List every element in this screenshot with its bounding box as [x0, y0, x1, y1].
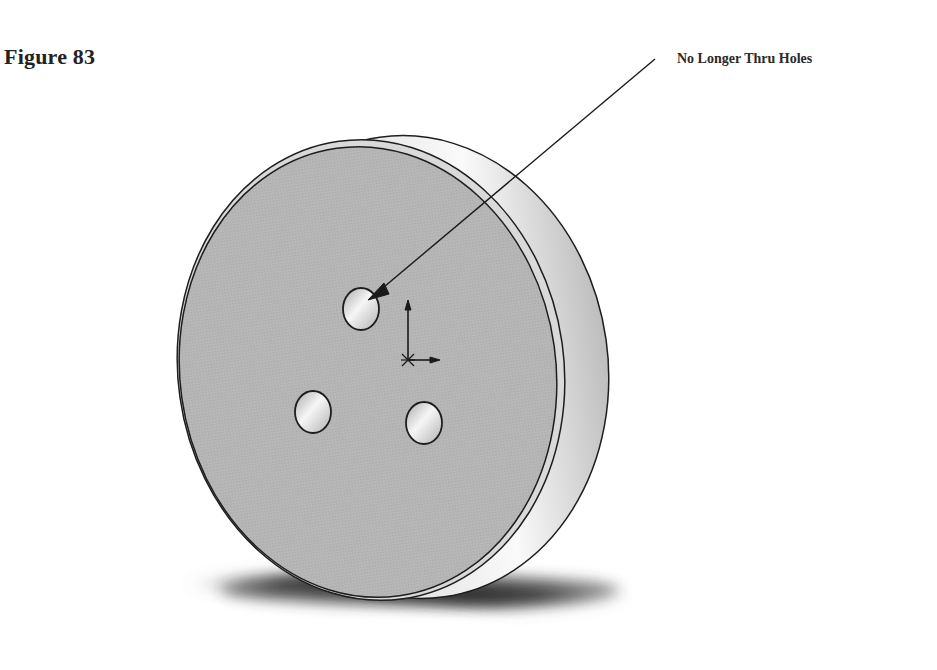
hole-bottom-left — [295, 391, 331, 433]
cad-model-view — [0, 0, 937, 670]
hole-bottom-right — [406, 402, 442, 444]
